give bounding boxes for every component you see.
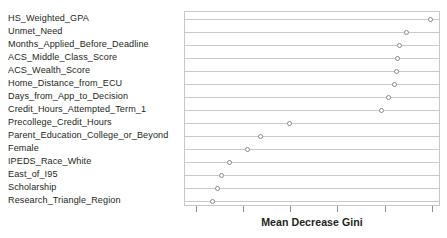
category-label: Female [8, 142, 184, 154]
category-label: Credit_Hours_Attempted_Term_1 [8, 103, 184, 115]
category-label: Precollege_Credit_Hours [8, 116, 184, 128]
data-point [258, 134, 263, 139]
plot-panel [184, 11, 440, 206]
data-point [392, 82, 397, 87]
data-point [404, 30, 409, 35]
x-axis-tick [432, 206, 433, 212]
category-label: Home_Distance_from_ECU [8, 77, 184, 89]
data-point [386, 95, 391, 100]
data-point [227, 160, 232, 165]
category-label: ACS_Middle_Class_Score [8, 51, 184, 63]
category-label: East_of_I95 [8, 168, 184, 180]
category-label: Parent_Education_College_or_Beyond [8, 129, 184, 141]
x-axis-tick [196, 206, 197, 212]
x-axis-tick [385, 206, 386, 212]
category-label: Unmet_Need [8, 25, 184, 37]
data-point [219, 173, 224, 178]
data-point [379, 108, 384, 113]
category-label: ACS_Wealth_Score [8, 64, 184, 76]
data-point [287, 121, 292, 126]
category-label: Research_Triangle_Region [8, 194, 184, 206]
category-label: Days_from_App_to_Decision [8, 90, 184, 102]
category-label-column: HS_Weighted_GPAUnmet_NeedMonths_Applied_… [0, 0, 184, 238]
category-label: IPEDS_Race_White [8, 155, 184, 167]
x-axis-tick [337, 206, 338, 212]
data-point [245, 147, 250, 152]
category-label: Months_Applied_Before_Deadline [8, 38, 184, 50]
x-axis-ticks [184, 206, 440, 214]
x-axis-tick [290, 206, 291, 212]
category-label: HS_Weighted_GPA [8, 12, 184, 24]
data-point [397, 43, 402, 48]
data-point [215, 186, 220, 191]
category-label: Scholarship [8, 181, 184, 193]
x-axis-title: Mean Decrease Gini [184, 216, 440, 228]
data-point [210, 199, 215, 204]
data-point [395, 56, 400, 61]
data-point [394, 69, 399, 74]
data-point [428, 17, 433, 22]
data-points-layer [185, 12, 439, 205]
variable-importance-dot-plot: HS_Weighted_GPAUnmet_NeedMonths_Applied_… [0, 0, 447, 238]
x-axis-tick [243, 206, 244, 212]
